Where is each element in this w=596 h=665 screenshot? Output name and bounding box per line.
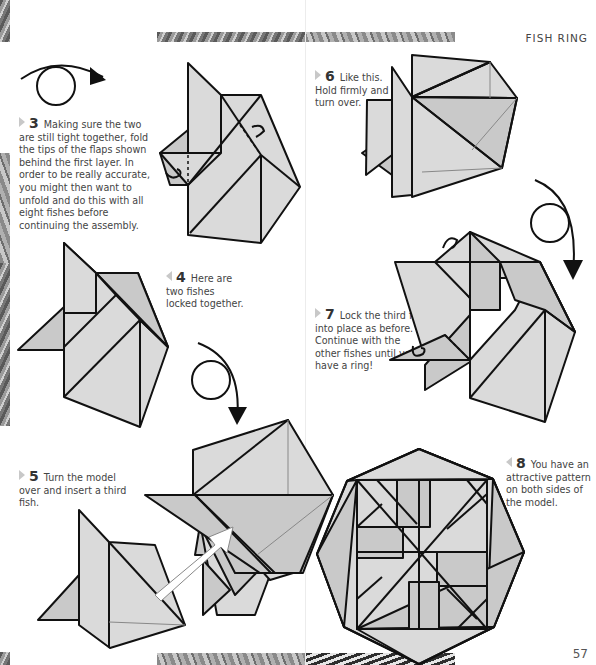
step-3-text: 3 Making sure the two are still tight to… xyxy=(19,117,159,232)
decorative-strip-left-top xyxy=(0,0,10,42)
decorative-strip-bottom-left xyxy=(157,653,305,665)
step-7-diagram xyxy=(395,250,585,450)
page-header-title: FISH RING xyxy=(526,32,588,44)
turn-over-icon xyxy=(185,335,255,425)
decorative-strip-top-right xyxy=(305,32,455,42)
decorative-strip-left-bottom xyxy=(0,652,10,665)
page-number: 57 xyxy=(573,647,588,661)
step-8-diagram xyxy=(317,449,527,664)
step-3-diagram xyxy=(160,55,320,235)
step-4-diagram xyxy=(18,235,178,435)
decorative-strip-left-mid xyxy=(0,153,10,263)
decorative-strip-left-lower xyxy=(0,263,10,426)
step-5-diagram xyxy=(35,415,335,645)
decorative-strip-top-left xyxy=(157,32,305,42)
right-triangle-marker-icon xyxy=(19,470,25,480)
step-6-diagram xyxy=(362,55,522,235)
right-triangle-marker-icon xyxy=(315,308,321,318)
turn-over-icon xyxy=(18,55,118,125)
